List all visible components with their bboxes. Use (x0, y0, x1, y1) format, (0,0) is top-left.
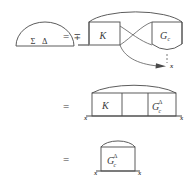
row-3-box-Gc-subscript: c (114, 162, 117, 168)
equals-sign-row-3: = (63, 153, 69, 165)
crossing-line-upper (120, 26, 152, 45)
row-3-right-x: x (137, 169, 142, 176)
row-1-group: Σ Δ = ∓ K G c (16, 12, 182, 69)
row-3-left-x: x (93, 169, 98, 176)
row-2-left-x: x (83, 114, 88, 121)
row-1-top-arc (89, 12, 182, 22)
equals-sign-row-1: = (63, 30, 69, 42)
diagram-canvas: Σ Δ = ∓ K G c (0, 0, 191, 184)
row-2-top-arc (92, 85, 176, 93)
box-Gc-subscript: c (168, 36, 171, 42)
arrow-x-label: x (169, 62, 174, 69)
row-1-tail-curve (120, 45, 158, 66)
crossing-line-lower (120, 22, 152, 45)
row-3-top-arc (101, 141, 135, 147)
sigma-label: Σ (31, 36, 36, 46)
box-K-label: K (99, 30, 108, 41)
equation-figure: Σ Δ = ∓ K G c (0, 0, 191, 184)
row-3-group: = G c Δ x x (63, 141, 142, 176)
tail-arrowhead (156, 63, 167, 68)
equals-sign-row-2: = (63, 100, 69, 112)
row-2-box-Gc-subscript: c (159, 108, 162, 114)
row-2-group: = K G c Δ x x (63, 85, 184, 120)
box-Gc-label: G (160, 30, 167, 41)
delta-label: Δ (42, 36, 48, 46)
row-3-box-Gc-superscript: Δ (114, 153, 118, 159)
minus-plus-sign: ∓ (74, 32, 82, 42)
row-2-box-Gc-superscript: Δ (159, 99, 163, 105)
row-2-right-x: x (179, 114, 184, 121)
row-2-box-K-label: K (101, 100, 110, 111)
